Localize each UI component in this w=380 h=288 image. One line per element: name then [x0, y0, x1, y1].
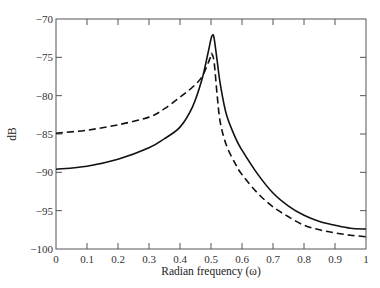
x-tick-label: 0.8 — [297, 253, 311, 265]
x-tick-label: 0 — [53, 253, 59, 265]
chart: 00.10.20.30.40.50.60.70.80.91 −100−95−90… — [0, 0, 380, 288]
series-dashed-line — [56, 53, 366, 237]
plot-frame — [56, 19, 366, 249]
x-tick-label: 0.6 — [235, 253, 249, 265]
plot-series — [56, 35, 366, 237]
x-tick-label: 0.2 — [111, 253, 125, 265]
x-tick-label: 0.9 — [328, 253, 342, 265]
y-tick-label: −85 — [36, 128, 54, 140]
x-tick-label: 1 — [363, 253, 369, 265]
series-solid-line — [56, 35, 366, 229]
y-tick-label: −90 — [36, 166, 54, 178]
axis-ticks — [56, 19, 366, 249]
y-tick-label: −95 — [36, 205, 54, 217]
x-axis-label: Radian frequency (ω) — [161, 265, 261, 278]
x-tick-labels: 00.10.20.30.40.50.60.70.80.91 — [53, 253, 369, 265]
y-axis-label: dB — [6, 127, 18, 141]
y-tick-label: −70 — [36, 13, 54, 25]
y-tick-labels: −100−95−90−85−80−75−70 — [30, 13, 53, 255]
x-tick-label: 0.4 — [173, 253, 187, 265]
x-tick-label: 0.5 — [204, 253, 218, 265]
x-tick-label: 0.7 — [266, 253, 280, 265]
x-tick-label: 0.3 — [142, 253, 156, 265]
y-tick-label: −80 — [36, 90, 54, 102]
y-tick-label: −75 — [36, 51, 54, 63]
x-tick-label: 0.1 — [80, 253, 94, 265]
y-tick-label: −100 — [30, 243, 53, 255]
